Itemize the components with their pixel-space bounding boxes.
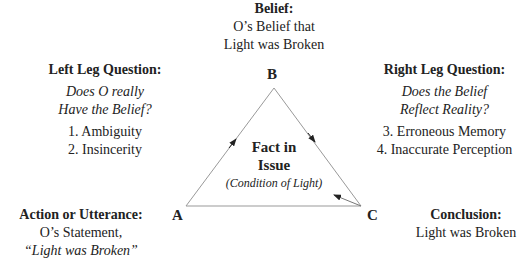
action-line2: “Light was Broken”	[6, 242, 156, 260]
action-block: Action or Utterance: O’s Statement, “Lig…	[6, 206, 156, 260]
action-heading: Action or Utterance:	[6, 206, 156, 224]
right-leg-question2: Reflect Reality?	[362, 101, 527, 119]
fact-sub: (Condition of Light)	[214, 174, 334, 192]
right-leg-question1: Does the Belief	[362, 83, 527, 101]
left-leg-block: Left Leg Question: Does O really Have th…	[30, 61, 180, 159]
fact-line1: Fact in	[214, 138, 334, 156]
vertex-b: B	[267, 66, 277, 83]
action-line1: O’s Statement,	[6, 224, 156, 242]
left-leg-item2: 2. Insincerity	[30, 141, 180, 159]
left-leg-heading: Left Leg Question:	[30, 61, 180, 79]
belief-block: Belief: O’s Belief that Light was Broken	[184, 0, 364, 54]
fact-line2: Issue	[214, 156, 334, 174]
vertex-c: C	[367, 207, 378, 224]
belief-line2: Light was Broken	[184, 36, 364, 54]
left-leg-item1: 1. Ambiguity	[30, 123, 180, 141]
vertex-a: A	[172, 207, 183, 224]
conclusion-block: Conclusion: Light was Broken	[405, 206, 527, 242]
conclusion-line1: Light was Broken	[405, 224, 527, 242]
left-leg-question2: Have the Belief?	[30, 101, 180, 119]
right-leg-heading: Right Leg Question:	[362, 61, 527, 79]
left-leg-question1: Does O really	[30, 83, 180, 101]
fact-in-issue-block: Fact in Issue (Condition of Light)	[214, 138, 334, 192]
belief-heading: Belief:	[184, 0, 364, 18]
belief-line1: O’s Belief that	[184, 18, 364, 36]
right-leg-item1: 3. Erroneous Memory	[362, 123, 527, 141]
right-leg-item2: 4. Inaccurate Perception	[362, 141, 527, 159]
conclusion-heading: Conclusion:	[405, 206, 527, 224]
right-leg-block: Right Leg Question: Does the Belief Refl…	[362, 61, 527, 159]
